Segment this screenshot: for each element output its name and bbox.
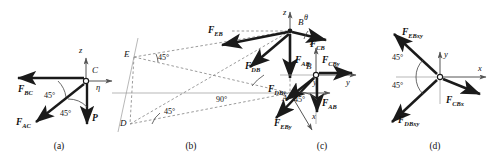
axis-label-y: y: [346, 78, 350, 87]
point-label-b: B: [306, 62, 312, 71]
axis-label-z: z: [79, 46, 82, 55]
panel-caption-c: (c): [266, 142, 378, 152]
force-label-fbc: FBC: [18, 85, 33, 96]
force-vector-fcbx: [443, 79, 480, 94]
panel-c: z y B FCBy FAB FDBy FEBy 45° (c): [266, 0, 378, 164]
panel-caption-d: (d): [374, 142, 496, 152]
axis-label-y: y: [444, 50, 448, 59]
axis-label-z: z: [310, 38, 313, 47]
angle-arc-45-upper: [58, 81, 66, 97]
force-label-feb: FEB: [208, 26, 223, 37]
panel-a-graphics: [0, 0, 118, 164]
panel-caption-b: (b): [112, 142, 270, 152]
force-label-feby: FEBy: [274, 119, 292, 130]
force-label-fdb: FDB: [245, 62, 260, 73]
angle-label-45-d1: 45°: [392, 54, 403, 62]
angle-arc-45-lower: [416, 77, 423, 94]
panel-c-graphics: [266, 0, 378, 164]
point-label-e: E: [124, 50, 130, 59]
force-label-p: P: [92, 114, 98, 124]
joint-marker-b: [313, 72, 318, 77]
angle-label-45-a1: 45°: [44, 92, 55, 100]
angle-arc-45-upper: [416, 60, 423, 77]
angle-arc-45-lower: [68, 99, 87, 107]
force-label-fcby: FCBy: [322, 56, 340, 67]
angle-label-45-e: 45°: [158, 54, 169, 62]
angle-label-45-c: 45°: [294, 96, 305, 104]
angle-label-45-d: 45°: [164, 108, 175, 116]
panel-b-graphics: [112, 0, 270, 164]
angle-label-45-d2: 45°: [392, 82, 403, 90]
axis-label-x: x: [478, 64, 482, 73]
axis-label-eta: η: [96, 83, 100, 92]
force-label-fdbxy: FDBxy: [398, 116, 419, 127]
joint-marker-c: [83, 78, 88, 83]
force-label-fac: FAC: [16, 118, 31, 129]
panel-a: z η C FBC FAC P 45° 45° (a): [0, 0, 118, 164]
force-label-fab: FAB: [322, 99, 337, 110]
panel-b: B E D A z y x FEB FDB FAB FCB θ 45° 90° …: [112, 0, 270, 164]
angle-label-45-a2: 45°: [60, 110, 71, 118]
force-label-fcbx: FCBx: [446, 96, 464, 107]
force-label-febxy: FEBxy: [402, 28, 423, 39]
panel-caption-a: (a): [0, 142, 118, 152]
figure-free-body-diagrams: z η C FBC FAC P 45° 45° (a): [0, 0, 496, 164]
angle-arc-90-a: [252, 75, 264, 86]
panel-d: y x FEBxy FDBxy FCBx 45° 45° (d): [374, 0, 496, 164]
force-label-fdby: FDBy: [268, 85, 286, 96]
point-label-c: C: [92, 66, 98, 75]
plane-edge-lines: [112, 38, 290, 132]
angle-label-90-a: 90°: [216, 96, 227, 104]
point-label-d: D: [120, 119, 127, 128]
joint-marker-origin: [437, 74, 442, 79]
